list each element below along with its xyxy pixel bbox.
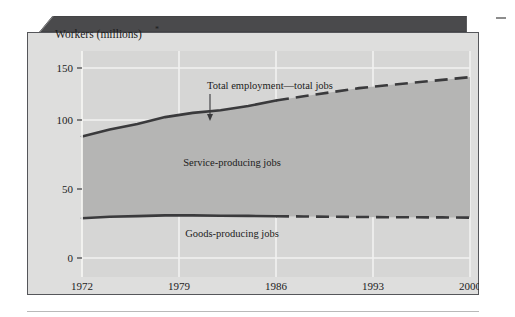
corner-marker-icon <box>496 17 506 19</box>
goods-producing-annotation-label: Goods-producing jobs <box>185 228 279 239</box>
y-axis-title: Workers (millions) <box>55 28 142 41</box>
service-producing-annotation-label: Service-producing jobs <box>183 157 281 168</box>
bottom-divider-rule <box>27 311 479 312</box>
y-tick-label-150: 150 <box>57 62 74 74</box>
x-tick-label-1979: 1979 <box>168 280 191 292</box>
x-tick-label-1993: 1993 <box>362 280 385 292</box>
y-tick-label-100: 100 <box>57 114 74 126</box>
y-axis-title-footnote-marker: * <box>155 25 159 34</box>
figure-root: Workers (millions) * 150 100 50 0 1972 1… <box>0 0 515 317</box>
x-tick-label-1986: 1986 <box>265 280 288 292</box>
total-employment-annotation-label: Total employment—total jobs <box>207 80 333 91</box>
y-tick-label-0: 0 <box>68 252 74 264</box>
figure-box: Workers (millions) * 150 100 50 0 1972 1… <box>27 16 479 295</box>
x-tick-label-1972: 1972 <box>71 280 93 292</box>
x-tick-label-2000: 2000 <box>459 280 479 292</box>
y-tick-label-50: 50 <box>62 183 74 195</box>
employment-area-chart: Workers (millions) * 150 100 50 0 1972 1… <box>27 16 479 295</box>
